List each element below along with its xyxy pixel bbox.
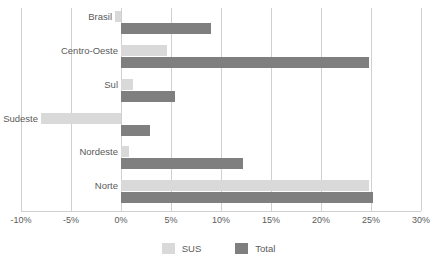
- legend-item-sus[interactable]: SUS: [162, 243, 202, 254]
- bar-total-norte: [121, 192, 373, 203]
- bar-group: [21, 177, 421, 211]
- gridline-30: [421, 8, 422, 211]
- x-tick-label: 20%: [312, 215, 330, 225]
- bar-total-sudeste: [121, 125, 150, 136]
- bar-group: [21, 110, 421, 144]
- legend-label: Total: [255, 243, 275, 254]
- category-label-centro-oeste: Centro-Oeste: [61, 45, 118, 56]
- bar-group: [21, 8, 421, 42]
- x-tick-label: 0%: [114, 215, 127, 225]
- plot-area: [21, 8, 421, 211]
- x-tick-label: 15%: [262, 215, 280, 225]
- chart-legend: SUSTotal: [0, 243, 437, 254]
- category-label-nordeste: Nordeste: [79, 146, 118, 157]
- x-tick-label: -10%: [10, 215, 31, 225]
- bar-sus-sudeste: [41, 113, 121, 124]
- bar-sus-centro-oeste: [121, 45, 167, 56]
- bar-sus-nordeste: [121, 146, 129, 157]
- legend-label: SUS: [182, 243, 202, 254]
- bar-total-centro-oeste: [121, 57, 369, 68]
- x-tick-label: 30%: [412, 215, 430, 225]
- legend-item-total[interactable]: Total: [235, 243, 275, 254]
- bar-group: [21, 76, 421, 110]
- bar-sus-brasil: [115, 11, 121, 22]
- legend-swatch-icon: [235, 243, 248, 254]
- category-label-brasil: Brasil: [88, 11, 112, 22]
- legend-swatch-icon: [162, 243, 175, 254]
- category-label-sul: Sul: [104, 79, 118, 90]
- bar-sus-norte: [121, 180, 369, 191]
- x-tick-label: 10%: [212, 215, 230, 225]
- x-tick-label: -5%: [63, 215, 79, 225]
- bar-total-nordeste: [121, 158, 243, 169]
- bar-chart: BrasilCentro-OesteSulSudesteNordesteNort…: [0, 0, 437, 267]
- x-axis-line: [21, 211, 421, 212]
- bar-total-brasil: [121, 23, 211, 34]
- category-label-sudeste: Sudeste: [3, 113, 38, 124]
- x-tick-label: 25%: [362, 215, 380, 225]
- category-label-norte: Norte: [95, 180, 118, 191]
- bar-sus-sul: [121, 79, 133, 90]
- x-tick-label: 5%: [164, 215, 177, 225]
- bar-total-sul: [121, 91, 175, 102]
